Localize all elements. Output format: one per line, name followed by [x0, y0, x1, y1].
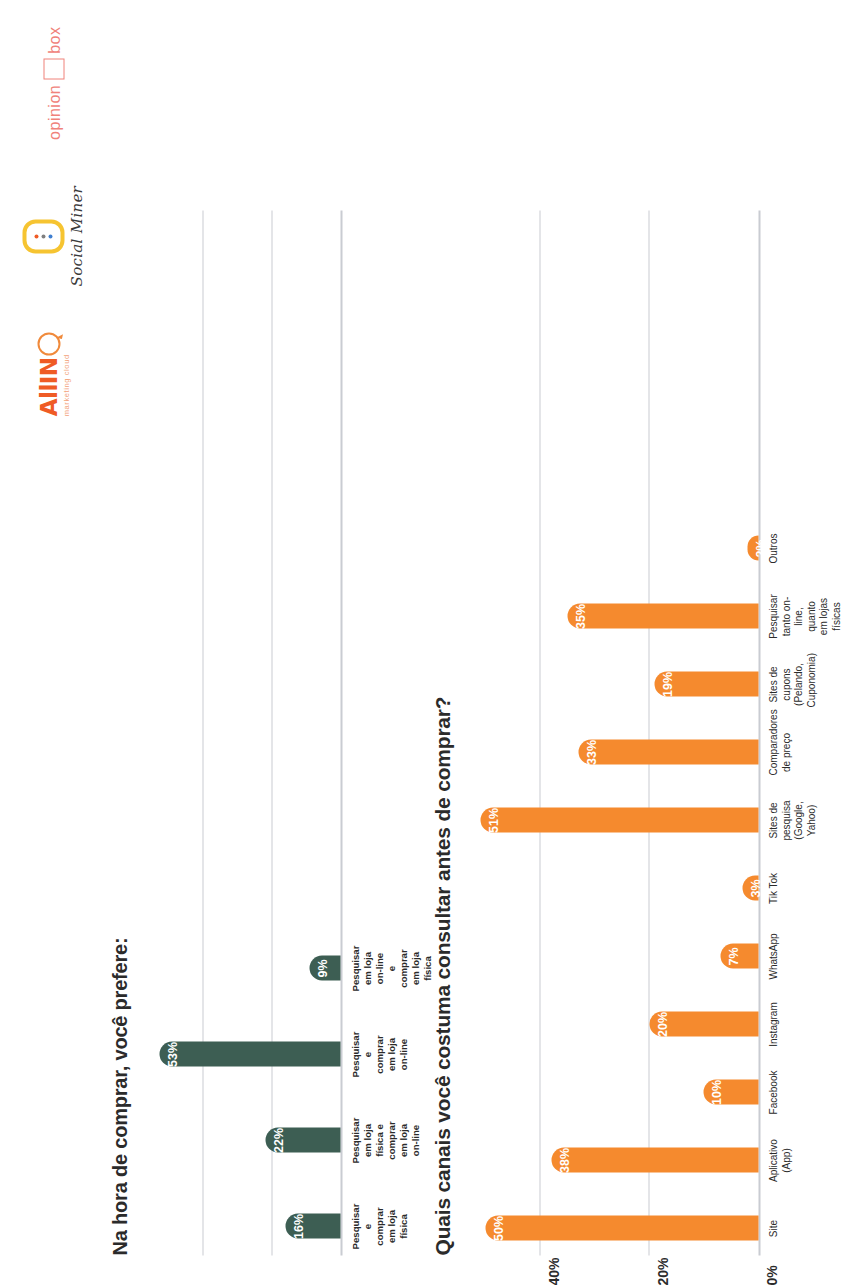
- allin-wordmark: AllIN: [37, 357, 60, 416]
- category-label: Pesquisar e comprar em loja on-line: [349, 1031, 433, 1077]
- bar-value-label: 2%: [754, 539, 758, 557]
- category-label: Facebook: [767, 1069, 842, 1115]
- bar-column[interactable]: 3%: [742, 865, 758, 911]
- chart-preference-gridlines: [137, 210, 340, 1255]
- bar-column[interactable]: 50%: [485, 1205, 758, 1251]
- rotated-page-canvas: AllIN marketing cloud Social Miner opini…: [0, 0, 854, 1285]
- bar[interactable]: 19%: [654, 672, 758, 697]
- three-dots-capsule-icon: [22, 219, 64, 253]
- bar[interactable]: 53%: [159, 1042, 340, 1067]
- bar-column[interactable]: 10%: [703, 1069, 758, 1115]
- bar[interactable]: 33%: [578, 740, 758, 765]
- bar-column[interactable]: 7%: [720, 933, 758, 979]
- bar-column[interactable]: 9%: [309, 945, 340, 991]
- bar-value-label: 19%: [661, 671, 758, 696]
- chart-channels-title: Quais canais você costuma consultar ante…: [430, 210, 454, 1255]
- bar[interactable]: 22%: [265, 1128, 340, 1153]
- category-label: Tik Tok: [767, 865, 842, 911]
- chart-channels-plot: 50%38%10%20%7%3%51%33%19%35%2%: [460, 210, 760, 1255]
- bar-value-label: 51%: [487, 807, 758, 832]
- bar-value-label: 35%: [574, 603, 758, 628]
- bar-value-label: 20%: [656, 1011, 758, 1036]
- bar-value-label: 7%: [727, 947, 758, 965]
- square-outline-icon: [43, 58, 64, 79]
- social-miner-logo: Social Miner: [22, 185, 85, 285]
- category-label: Sites de pesquisa (Google, Yahoo): [767, 797, 842, 843]
- bar[interactable]: 20%: [649, 1012, 758, 1037]
- bar-column[interactable]: 2%: [747, 525, 758, 571]
- bar-column[interactable]: 16%: [285, 1203, 340, 1249]
- gridline-20: [271, 210, 272, 1255]
- bar-column[interactable]: 33%: [578, 729, 758, 775]
- category-label: Site: [767, 1205, 842, 1251]
- category-label: Pesquisar tanto on-line, quanto em lojas…: [767, 593, 842, 639]
- speech-bubble-icon: [37, 332, 60, 355]
- bar-value-label: 16%: [292, 1213, 340, 1238]
- social-miner-wordmark: Social Miner: [67, 185, 85, 285]
- chart-channels: Quais canais você costuma consultar ante…: [430, 210, 825, 1255]
- allin-tagline: marketing cloud: [62, 354, 70, 416]
- category-label: Aplicativo (App): [767, 1137, 842, 1183]
- category-label: Pesquisar em loja on-line e comprar em l…: [349, 945, 433, 991]
- bar-column[interactable]: 38%: [551, 1137, 758, 1183]
- bar-column[interactable]: 51%: [480, 797, 758, 843]
- gridline-40: [202, 210, 203, 1255]
- bar[interactable]: 35%: [567, 604, 758, 629]
- chart-channels-category-labels: SiteAplicativo (App)FacebookInstagramWha…: [767, 210, 842, 1255]
- y-axis-tick: 20%: [654, 1257, 670, 1285]
- chart-preference-plot: 16%22%53%9%: [137, 210, 342, 1255]
- bar-value-label: 9%: [316, 959, 340, 977]
- bar-column[interactable]: 20%: [649, 1001, 758, 1047]
- bar-column[interactable]: 22%: [265, 1117, 340, 1163]
- bar[interactable]: 50%: [485, 1216, 758, 1241]
- bar-value-label: 33%: [585, 739, 758, 764]
- bar[interactable]: 7%: [720, 944, 758, 969]
- bar[interactable]: 16%: [285, 1214, 340, 1239]
- bar[interactable]: 38%: [551, 1148, 758, 1173]
- category-label: WhatsApp: [767, 933, 842, 979]
- bar[interactable]: 9%: [309, 956, 340, 981]
- y-axis-tick: 40%: [545, 1257, 561, 1285]
- bar[interactable]: 51%: [480, 808, 758, 833]
- category-label: Pesquisar e comprar em loja física: [349, 1203, 433, 1249]
- bar-value-label: 3%: [749, 879, 758, 897]
- bar-column[interactable]: 19%: [654, 661, 758, 707]
- bar-value-label: 50%: [492, 1215, 758, 1240]
- chart-preference-category-labels: Pesquisar e comprar em loja físicaPesqui…: [349, 210, 433, 1255]
- opinion-box-logo: opinion box: [43, 26, 64, 139]
- chart-preference-title: Na hora de comprar, você prefere:: [108, 210, 131, 1255]
- gridline-40: [539, 210, 540, 1255]
- bar[interactable]: 2%: [747, 536, 758, 561]
- bar[interactable]: 3%: [742, 876, 758, 901]
- y-axis-tick: 0%: [763, 1265, 779, 1285]
- category-label: Sites de cupons (Pelando, Cuponomia): [767, 661, 842, 707]
- category-label: Instagram: [767, 1001, 842, 1047]
- bar[interactable]: 10%: [703, 1080, 758, 1105]
- category-label: Comparadores de preço: [767, 729, 842, 775]
- bar-value-label: 22%: [272, 1127, 340, 1152]
- opinion-box-word: opinion: [45, 84, 63, 139]
- bar-column[interactable]: 35%: [567, 593, 758, 639]
- logo-row: AllIN marketing cloud Social Miner opini…: [22, 26, 85, 416]
- infographic-poster: AllIN marketing cloud Social Miner opini…: [0, 0, 854, 1285]
- bar-column[interactable]: 53%: [159, 1031, 340, 1077]
- category-label: Outros: [767, 525, 842, 571]
- bar-value-label: 38%: [558, 1147, 758, 1172]
- allin-logo: AllIN marketing cloud: [37, 332, 70, 416]
- bar-value-label: 53%: [166, 1041, 340, 1066]
- opinion-box-suffix: box: [45, 26, 63, 53]
- category-label: Pesquisar em loja física e comprar em lo…: [349, 1117, 433, 1163]
- bar-value-label: 10%: [710, 1079, 758, 1104]
- chart-preference: Na hora de comprar, você prefere: 16%22%…: [108, 210, 383, 1255]
